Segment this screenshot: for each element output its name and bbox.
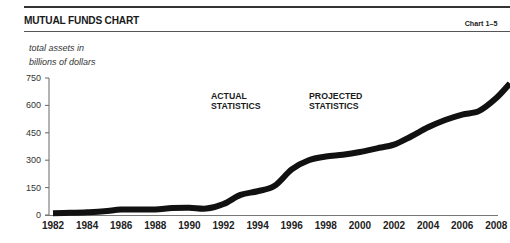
y-tick-label: 750 (26, 73, 41, 83)
y-tick-label: 450 (26, 128, 41, 138)
x-tick-label: 1984 (76, 220, 99, 231)
x-tick-label: 2006 (451, 220, 474, 231)
x-tick-label: 1986 (110, 220, 133, 231)
x-tick-label: 1992 (212, 220, 235, 231)
y-tick-label: 600 (26, 100, 41, 110)
x-axis: 1982198419861988199019921994199619982000… (42, 216, 508, 232)
x-tick-label: 2008 (485, 220, 508, 231)
y-tick-label: 0 (36, 210, 41, 220)
x-tick-label: 1996 (281, 220, 304, 231)
y-tick-label: 150 (26, 183, 41, 193)
y-tick-label: 300 (26, 155, 41, 165)
x-tick-label: 2004 (417, 220, 440, 231)
x-tick-label: 1990 (178, 220, 201, 231)
x-tick-label: 1982 (42, 220, 65, 231)
line-chart: 0150300450600750 19821984198619881990199… (0, 0, 510, 243)
x-tick-label: 2002 (383, 220, 406, 231)
x-tick-label: 1988 (144, 220, 167, 231)
y-axis: 0150300450600750 (26, 73, 49, 220)
series-line-total-assets (53, 83, 510, 213)
x-tick-label: 1994 (246, 220, 269, 231)
x-tick-label: 1998 (315, 220, 338, 231)
x-tick-label: 2000 (349, 220, 372, 231)
